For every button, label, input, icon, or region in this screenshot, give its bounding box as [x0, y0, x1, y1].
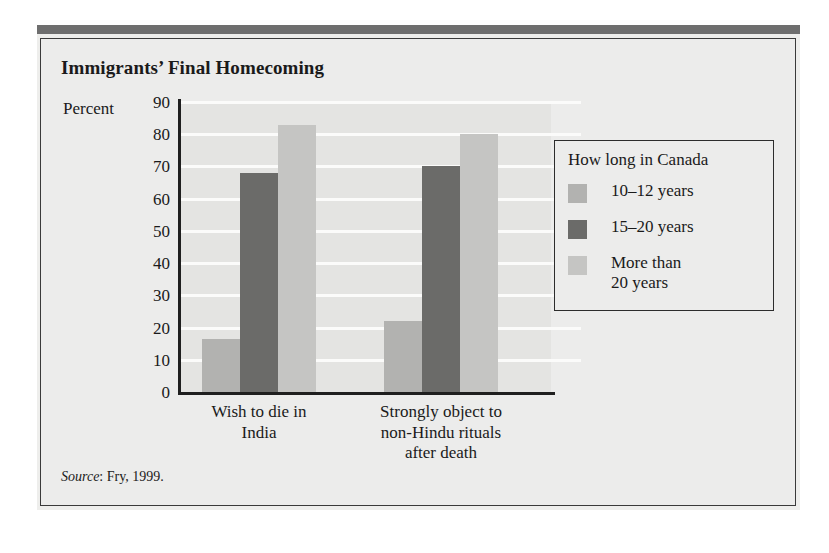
source-note: Source: Fry, 1999.	[61, 469, 164, 485]
top-rule-bar	[37, 25, 800, 34]
source-label: Source	[61, 469, 99, 484]
figure-inner-frame: Immigrants’ Final Homecoming Percent 908…	[40, 38, 796, 506]
x-category-label: Wish to die in India	[159, 402, 359, 443]
page-title: Immigrants’ Final Homecoming	[61, 57, 324, 79]
bar	[202, 339, 240, 392]
y-tick-label: 50	[130, 223, 170, 240]
bar	[422, 166, 460, 392]
y-tick-label: 60	[130, 191, 170, 208]
bar	[240, 173, 278, 392]
bar	[460, 134, 498, 392]
y-tick-label: 90	[130, 94, 170, 111]
y-tick-label: 10	[130, 352, 170, 369]
y-tick-label: 40	[130, 255, 170, 272]
y-tick-label: 30	[130, 287, 170, 304]
legend-swatch	[568, 184, 587, 203]
figure-panel: Immigrants’ Final Homecoming Percent 908…	[37, 25, 800, 510]
legend-item-label: More than 20 years	[611, 253, 681, 294]
gridline	[179, 101, 581, 104]
legend-item-label: 15–20 years	[611, 217, 694, 237]
legend-swatch	[568, 220, 587, 239]
legend-swatch	[568, 256, 587, 275]
gridline	[179, 165, 581, 168]
y-axis-title: Percent	[63, 99, 114, 119]
x-axis-line	[178, 392, 555, 395]
y-tick-label: 20	[130, 320, 170, 337]
source-text: : Fry, 1999.	[99, 469, 163, 484]
legend-title: How long in Canada	[568, 150, 708, 170]
bar	[278, 125, 316, 392]
legend-item-label: 10–12 years	[611, 181, 694, 201]
x-category-label: Strongly object to non-Hindu rituals aft…	[341, 402, 541, 464]
bar	[384, 321, 422, 392]
plot-wrapper: Percent 9080706050403020100 Wish to die …	[151, 102, 551, 397]
gridline	[179, 133, 581, 136]
chart-legend: How long in Canada 10–12 years15–20 year…	[554, 140, 774, 311]
y-tick-label: 0	[130, 384, 170, 401]
y-tick-label: 70	[130, 158, 170, 175]
y-axis-line	[178, 99, 181, 395]
y-tick-label: 80	[130, 126, 170, 143]
